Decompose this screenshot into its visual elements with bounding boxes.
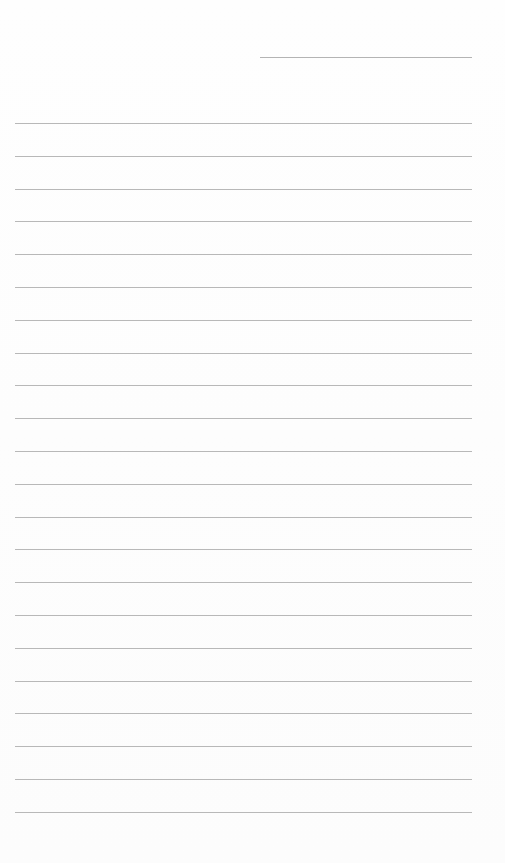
date-line [260, 57, 472, 58]
ruled-line [15, 123, 472, 124]
ruled-line [15, 418, 472, 419]
ruled-line [15, 812, 472, 813]
ruled-line [15, 582, 472, 583]
ruled-line [15, 713, 472, 714]
ruled-line [15, 648, 472, 649]
ruled-line [15, 451, 472, 452]
ruled-line [15, 385, 472, 386]
lined-paper-sheet [0, 0, 505, 863]
ruled-line [15, 549, 472, 550]
ruled-line [15, 746, 472, 747]
ruled-line [15, 320, 472, 321]
ruled-line [15, 484, 472, 485]
ruled-line [15, 254, 472, 255]
ruled-line [15, 353, 472, 354]
ruled-line [15, 681, 472, 682]
ruled-line [15, 287, 472, 288]
ruled-line [15, 779, 472, 780]
ruled-line [15, 517, 472, 518]
ruled-line [15, 615, 472, 616]
ruled-line [15, 189, 472, 190]
ruled-line [15, 156, 472, 157]
ruled-line [15, 221, 472, 222]
